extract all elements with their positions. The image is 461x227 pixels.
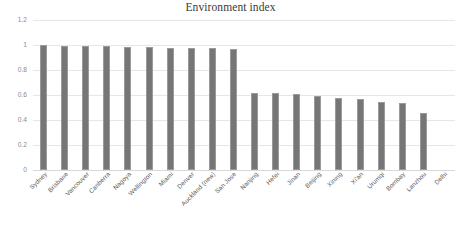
bar[interactable] — [357, 99, 364, 170]
x-axis-tick-label: Delhi — [434, 171, 449, 186]
x-axis-tick-label: Canberra — [88, 171, 112, 195]
bar[interactable] — [293, 94, 300, 170]
bar[interactable] — [420, 113, 427, 171]
bars-layer — [33, 20, 455, 170]
y-tick-label: 0 — [0, 167, 27, 174]
y-tick-label: 1 — [0, 42, 27, 49]
x-axis-tick-label: San Jose — [214, 171, 238, 195]
y-tick-label: 0.2 — [0, 142, 27, 149]
x-axis-tick-label: Bombay — [385, 171, 406, 192]
bar[interactable] — [188, 48, 195, 171]
bar[interactable] — [103, 46, 110, 170]
bar[interactable] — [230, 49, 237, 170]
bar[interactable] — [146, 47, 153, 170]
x-axis-tick-label: Xining — [326, 171, 343, 188]
bar[interactable] — [61, 46, 68, 170]
bar[interactable] — [167, 48, 174, 171]
x-axis-tick-label: Hefei — [265, 171, 280, 186]
x-axis-tick-label: Nanjing — [239, 171, 259, 191]
y-axis: 00.20.40.60.811.2 — [0, 20, 31, 170]
x-axis-tick-label: Jinan — [286, 171, 301, 186]
x-axis-labels: SydneyBrisbaneVancouverCanberraNagoyaWel… — [33, 171, 455, 227]
x-axis-tick-label: Xi'an — [350, 171, 365, 186]
bar[interactable] — [124, 47, 131, 170]
bar[interactable] — [40, 45, 47, 170]
bar[interactable] — [335, 98, 342, 171]
y-tick-label: 0.8 — [0, 67, 27, 74]
bar[interactable] — [251, 93, 258, 171]
x-axis-tick-label: Urumqi — [366, 171, 385, 190]
bar[interactable] — [399, 103, 406, 170]
x-axis-tick-label: Beijing — [304, 171, 322, 189]
y-tick-label: 1.2 — [0, 17, 27, 24]
x-axis-tick-label: Miami — [158, 171, 175, 188]
bar[interactable] — [209, 48, 216, 170]
y-tick-label: 0.6 — [0, 92, 27, 99]
bar[interactable] — [272, 93, 279, 170]
bar[interactable] — [82, 46, 89, 170]
chart-title: Environment index — [0, 1, 461, 13]
environment-index-chart: Environment index 00.20.40.60.811.2 Sydn… — [0, 0, 461, 227]
bar[interactable] — [378, 102, 385, 170]
bar[interactable] — [314, 96, 321, 170]
y-tick-label: 0.4 — [0, 117, 27, 124]
x-axis-tick-label: Lanzhou — [406, 171, 428, 193]
